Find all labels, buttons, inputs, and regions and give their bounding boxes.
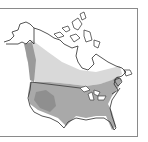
alaska-outline (4, 22, 34, 44)
arctic-islands (54, 12, 100, 48)
range-light-band (26, 40, 122, 86)
range-map (0, 0, 148, 142)
